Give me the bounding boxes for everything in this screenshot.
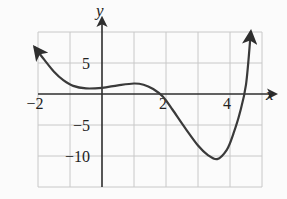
x-axis-label: x: [265, 85, 274, 104]
x-tick-label: −2: [26, 95, 43, 112]
function-graph: −2245−5−10 x y: [0, 0, 287, 199]
y-tick-label: 5: [82, 55, 90, 72]
curve-layer: [35, 32, 251, 159]
function-curve: [35, 32, 251, 159]
y-tick-label: −10: [65, 148, 90, 165]
x-tick-label: 4: [223, 95, 231, 112]
y-axis-label: y: [94, 1, 104, 20]
y-tick-label: −5: [73, 117, 90, 134]
